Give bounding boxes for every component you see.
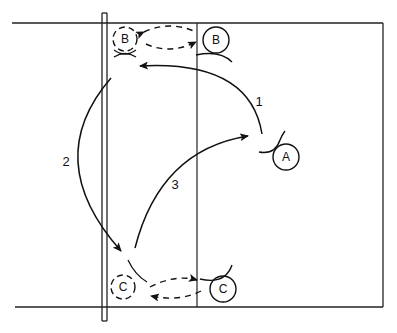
b-move-bottom (146, 42, 196, 49)
player-c-label: C (219, 282, 228, 296)
player-b-dashed-arms (114, 50, 136, 57)
player-b-start: B (196, 27, 232, 62)
player-b-arm (196, 54, 232, 62)
b-move-top (144, 26, 196, 32)
path-1: 1 (140, 66, 263, 134)
c-move-top (150, 278, 197, 287)
player-b-movement (144, 26, 196, 49)
player-a: A (259, 131, 299, 170)
path-2: 2 (62, 78, 121, 251)
player-c-end: C (111, 260, 147, 299)
player-c-dashed-label: C (119, 280, 128, 294)
path-3: 3 (135, 136, 248, 248)
volleyball-diagram: B B A C C 1 2 (0, 0, 397, 333)
path-1-arc (140, 66, 262, 134)
player-c-movement (150, 278, 201, 298)
player-b-end: B (113, 27, 137, 57)
player-b-dashed-label: B (121, 32, 129, 46)
player-c-start: C (200, 265, 236, 302)
path-3-arc (135, 136, 248, 248)
path-3-label: 3 (171, 177, 178, 192)
player-b-label: B (212, 33, 220, 47)
player-a-label: A (282, 150, 290, 164)
path-2-arc (78, 78, 121, 251)
path-1-label: 1 (255, 94, 262, 109)
path-2-label: 2 (62, 154, 69, 169)
c-move-bottom (151, 291, 201, 298)
